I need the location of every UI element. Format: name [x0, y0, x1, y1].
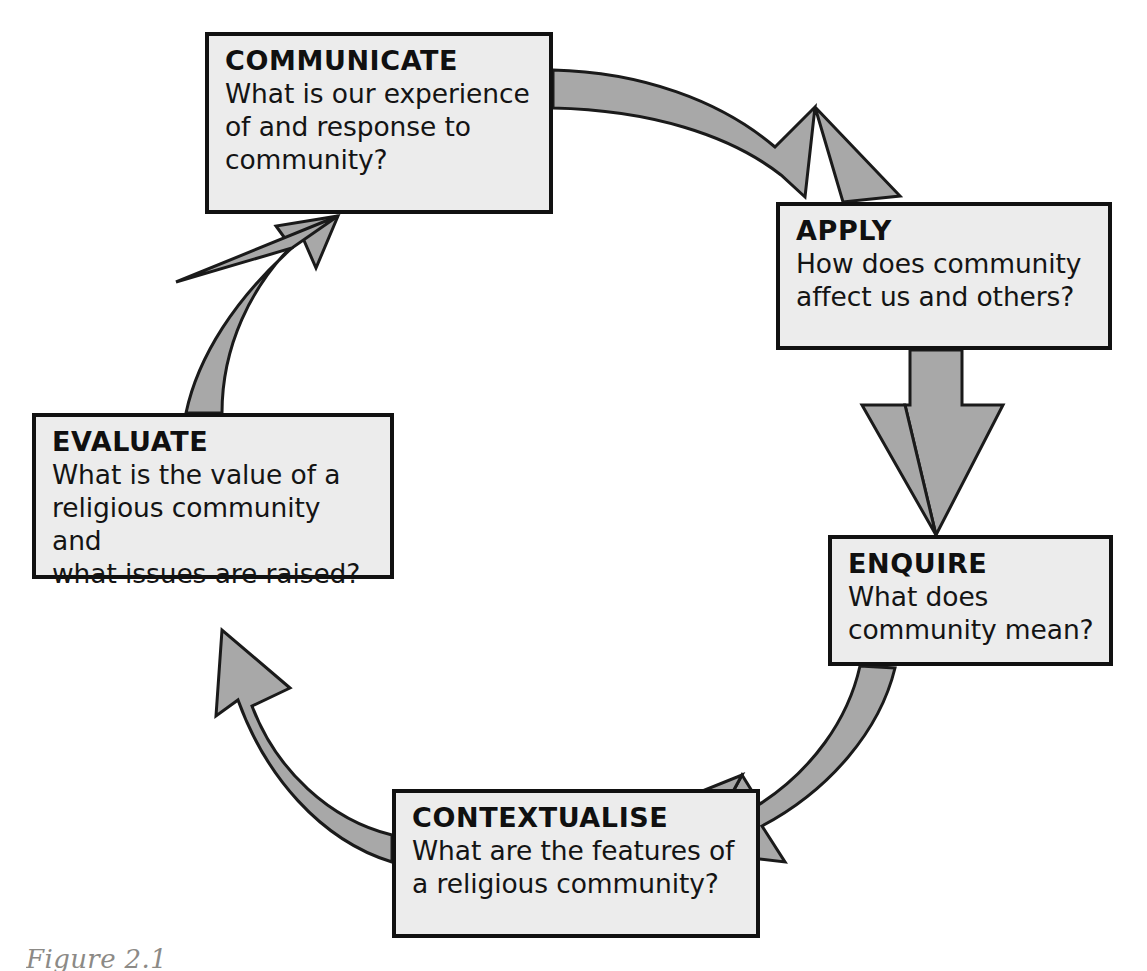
node-evaluate-body: What is the value of a religious communi… — [52, 459, 376, 590]
node-evaluate-title: EVALUATE — [52, 427, 376, 456]
node-evaluate-line-3: what issues are raised? — [52, 558, 376, 591]
node-communicate-line-2: of and response to — [225, 111, 535, 144]
node-contextualise-line-1: What are the features of — [412, 835, 742, 868]
node-evaluate-line-1: What is the value of a — [52, 459, 376, 492]
node-contextualise-body: What are the features of a religious com… — [412, 835, 742, 901]
node-enquire-line-1: What does — [848, 581, 1095, 614]
node-communicate-title: COMMUNICATE — [225, 46, 535, 75]
node-enquire-body: What does community mean? — [848, 581, 1095, 647]
node-contextualise-title: CONTEXTUALISE — [412, 803, 742, 832]
node-apply-title: APPLY — [796, 216, 1094, 245]
node-apply-line-2: affect us and others? — [796, 281, 1094, 314]
node-apply[interactable]: APPLY How does community affect us and o… — [776, 202, 1112, 350]
node-contextualise[interactable]: CONTEXTUALISE What are the features of a… — [392, 789, 760, 938]
node-evaluate-line-2: religious community and — [52, 492, 376, 558]
node-apply-body: How does community affect us and others? — [796, 248, 1094, 314]
node-communicate[interactable]: COMMUNICATE What is our experience of an… — [205, 32, 553, 214]
diagram-canvas: COMMUNICATE What is our experience of an… — [0, 0, 1147, 971]
node-enquire-line-2: community mean? — [848, 614, 1095, 647]
figure-caption: Figure 2.1 — [26, 944, 167, 971]
node-communicate-body: What is our experience of and response t… — [225, 78, 535, 177]
node-enquire[interactable]: ENQUIRE What does community mean? — [828, 535, 1113, 666]
arrow-communicate-to-apply — [553, 70, 900, 202]
node-communicate-line-3: community? — [225, 144, 535, 177]
node-contextualise-line-2: a religious community? — [412, 868, 742, 901]
node-evaluate[interactable]: EVALUATE What is the value of a religiou… — [32, 413, 394, 579]
node-communicate-line-1: What is our experience — [225, 78, 535, 111]
arrow-contextualise-to-evaluate — [216, 630, 392, 862]
node-enquire-title: ENQUIRE — [848, 549, 1095, 578]
node-apply-line-1: How does community — [796, 248, 1094, 281]
